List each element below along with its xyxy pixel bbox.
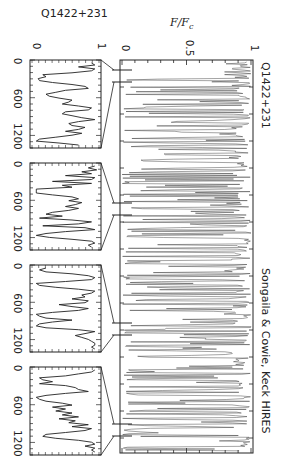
- zoom-markers: [112, 70, 132, 436]
- main-ytick-1: 1: [249, 45, 261, 52]
- inset-quasar-label: Q1422+231: [41, 7, 108, 20]
- main-ytick-0: 0: [120, 45, 132, 52]
- main-spectrum-trace: [122, 62, 251, 451]
- inset-ytick: 1: [96, 43, 108, 50]
- zoom-connector-lines: [101, 60, 114, 455]
- quasar-title: Q1422+231: [259, 62, 272, 129]
- inset-xtick: 600: [12, 396, 24, 416]
- inset-xtick: 600: [12, 293, 24, 313]
- inset-xtick: 1200: [12, 327, 24, 354]
- inset-xtick: 600: [12, 89, 24, 109]
- inset-xtick: 1200: [12, 430, 24, 457]
- inset-xtick: 1200: [12, 123, 24, 150]
- spectrum-figure: F/Fc 0 0.5 1 Q1422+231 Songaila & Cowie,…: [0, 0, 287, 473]
- inset-xtick: 0: [12, 263, 24, 270]
- zoom-insets: 0600120001060012000600120006001200: [12, 43, 108, 457]
- inset-panel-4: 06001200: [12, 365, 101, 457]
- main-spectrum-panel: 0 0.5 1 Q1422+231 Songaila & Cowie, Keck…: [112, 40, 272, 453]
- inset-xtick: 1200: [12, 225, 24, 252]
- inset-ytick: 0: [31, 43, 43, 50]
- inset-panel-3: 06001200: [12, 263, 101, 354]
- inset-panel-1: 0600120001: [12, 43, 108, 150]
- inset-panel-2: 06001200: [12, 161, 101, 252]
- inset-xtick: 0: [12, 58, 24, 65]
- data-credit: Songaila & Cowie, Keck HIRES: [259, 268, 272, 434]
- inset-xtick: 0: [12, 161, 24, 168]
- flux-axis-label: F/Fc: [169, 16, 194, 31]
- main-ytick-0.5: 0.5: [184, 40, 196, 57]
- inset-xtick: 600: [12, 191, 24, 211]
- inset-xtick: 0: [12, 365, 24, 372]
